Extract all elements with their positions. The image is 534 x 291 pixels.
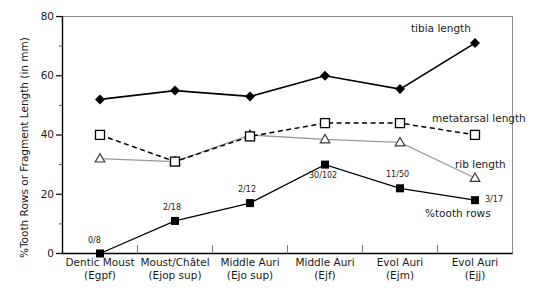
point-label-3: 30/102 <box>309 171 337 180</box>
series-label-rib-length: rib length <box>455 158 506 170</box>
x-category-line1-4: Evol Auri <box>362 256 438 269</box>
x-ticks <box>138 245 438 254</box>
x-category-line2-4: (Ejm) <box>362 269 438 282</box>
x-category-label-3: Middle Auri (Ejf) <box>287 256 363 282</box>
point-label-4: 11/50 <box>386 170 409 179</box>
x-category-label-0: Dentic Moust (Egpf) <box>62 256 138 282</box>
series-label-tibia-length: tibia length <box>411 22 471 34</box>
x-category-line2-5: (Ejj) <box>437 269 513 282</box>
x-category-line2-0: (Egpf) <box>62 269 138 282</box>
series-line-metatarsal-length <box>100 123 475 162</box>
x-category-line1-1: Moust/Châtel <box>137 256 213 269</box>
series-line-tibia-length <box>100 43 475 99</box>
point-label-2: 2/12 <box>238 185 256 194</box>
x-category-line1-3: Middle Auri <box>287 256 363 269</box>
x-category-label-4: Evol Auri (Ejm) <box>362 256 438 282</box>
point-label-0: 0/8 <box>88 236 101 245</box>
point-label-1: 2/18 <box>163 203 181 212</box>
series-markers-tibia-length <box>95 38 480 104</box>
series-line-tooth-rows <box>100 165 475 254</box>
x-category-line2-1: (Ejop sup) <box>137 269 213 282</box>
series-line-rib-length <box>100 135 475 178</box>
series-markers-metatarsal-length <box>96 119 480 167</box>
y-major-ticks <box>56 17 63 254</box>
point-label-5: 3/17 <box>485 195 503 204</box>
series-label-metatarsal-length: metatarsal length <box>432 112 526 124</box>
series-label-tooth-rows: %tooth rows <box>425 207 491 219</box>
x-category-label-1: Moust/Châtel (Ejop sup) <box>137 256 213 282</box>
x-category-label-5: Evol Auri (Ejj) <box>437 256 513 282</box>
x-category-line1-2: Middle Auri <box>212 256 288 269</box>
x-category-line2-3: (Ejf) <box>287 269 363 282</box>
x-category-label-2: Middle Auri (Ejo sup) <box>212 256 288 282</box>
x-category-line2-2: (Ejo sup) <box>212 269 288 282</box>
series-markers-tooth-rows <box>96 161 479 258</box>
x-category-line1-0: Dentic Moust <box>62 256 138 269</box>
chart-container: %Tooth Rows or Fragment Length (in mm) 8… <box>0 0 534 291</box>
plot-svg <box>0 0 534 291</box>
x-category-line1-5: Evol Auri <box>437 256 513 269</box>
